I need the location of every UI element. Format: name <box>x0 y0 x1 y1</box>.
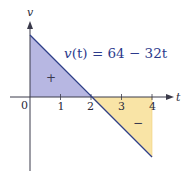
velocity-chart: v t 0 1 2 3 4 v(t) = 64 − 32t + − <box>0 0 183 179</box>
tick-label-4: 4 <box>149 100 156 113</box>
v-axis-label: v <box>27 6 34 19</box>
tick-label-2: 2 <box>87 100 94 113</box>
t-axis-label: t <box>176 91 181 104</box>
t-axis-arrow-icon <box>166 94 174 100</box>
positive-sign-label: + <box>46 71 56 85</box>
negative-sign-label: − <box>133 116 143 130</box>
tick-label-3: 3 <box>118 100 125 113</box>
function-equation-label: v(t) = 64 − 32t <box>64 45 168 61</box>
equation-rest: (t) = 64 − 32t <box>72 45 168 61</box>
v-axis-arrow-icon <box>27 21 33 29</box>
tick-label-0: 0 <box>21 99 28 112</box>
tick-label-1: 1 <box>58 100 65 113</box>
